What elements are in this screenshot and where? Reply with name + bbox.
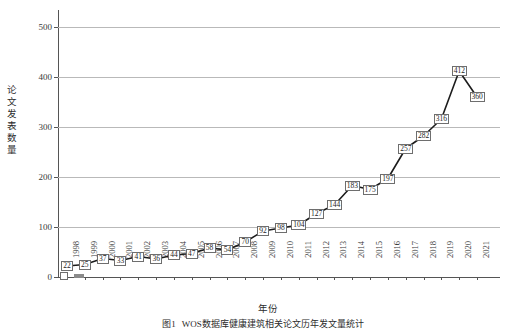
data-label: 316 [434,114,449,124]
data-label: 257 [398,144,413,154]
data-label: 412 [452,66,467,76]
data-label: 58 [204,243,216,253]
data-label: 47 [186,249,198,259]
data-label: 92 [257,226,269,236]
data-label: 33 [114,256,126,266]
data-label: 25 [79,260,91,270]
data-label: 37 [97,254,109,264]
data-label: 197 [380,174,395,184]
caption-text: WOS数据库健康建筑相关论文历年发文量统计 [182,319,364,329]
data-label: 360 [470,92,485,102]
data-label: 22 [61,261,73,271]
data-label: 104 [291,220,306,230]
figure-wos-publications: 论文发表数量 0100200300400500 1998199920002001… [0,0,526,329]
figure-caption: 图1WOS数据库健康建筑相关论文历年发文量统计 [0,317,526,329]
caption-number: 图1 [162,319,176,329]
data-label: 36 [150,254,162,264]
data-label: 44 [168,250,180,260]
data-label: 175 [363,185,378,195]
data-label: 144 [327,200,342,210]
data-label: 41 [132,252,144,262]
data-label: 183 [345,181,360,191]
series-line-publications [0,0,526,329]
data-label: 98 [275,223,287,233]
data-label: 282 [416,131,431,141]
data-label: 70 [239,237,251,247]
x-axis-title: 年份 [258,301,278,315]
data-label: 54 [221,245,233,255]
data-label: 127 [309,209,324,219]
